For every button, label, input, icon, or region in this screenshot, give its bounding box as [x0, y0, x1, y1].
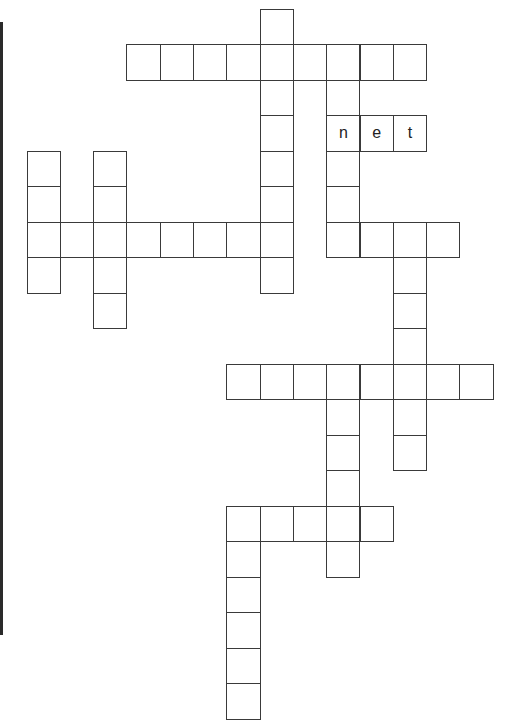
crossword-cell[interactable]: [393, 364, 427, 401]
crossword-grid: net: [0, 0, 509, 728]
crossword-cell[interactable]: [393, 44, 427, 81]
crossword-cell[interactable]: [160, 222, 194, 259]
crossword-cell[interactable]: [393, 257, 427, 294]
crossword-cell[interactable]: [360, 222, 394, 259]
crossword-cell[interactable]: [260, 44, 294, 81]
crossword-cell[interactable]: [27, 257, 61, 294]
crossword-cell[interactable]: [193, 44, 227, 81]
crossword-cell[interactable]: [126, 44, 160, 81]
crossword-cell[interactable]: [27, 222, 61, 259]
crossword-cell[interactable]: [326, 470, 360, 507]
crossword-cell[interactable]: [126, 222, 160, 259]
crossword-cell[interactable]: [27, 186, 61, 223]
crossword-cell[interactable]: [360, 364, 394, 401]
crossword-cell[interactable]: [226, 44, 260, 81]
crossword-cell[interactable]: [459, 364, 493, 401]
crossword-cell[interactable]: [326, 364, 360, 401]
crossword-cell[interactable]: [226, 222, 260, 259]
crossword-cell[interactable]: [260, 9, 294, 46]
crossword-cell[interactable]: [326, 44, 360, 81]
crossword-cell[interactable]: [260, 115, 294, 152]
crossword-cell[interactable]: [326, 399, 360, 436]
crossword-cell[interactable]: [93, 222, 127, 259]
crossword-cell[interactable]: [226, 506, 260, 543]
crossword-cell[interactable]: [226, 364, 260, 401]
crossword-cell[interactable]: [93, 151, 127, 188]
crossword-cell[interactable]: [93, 293, 127, 330]
crossword-cell[interactable]: [293, 364, 327, 401]
crossword-cell[interactable]: [326, 222, 360, 259]
crossword-cell[interactable]: [326, 80, 360, 117]
crossword-cell[interactable]: e: [360, 115, 394, 152]
crossword-cell[interactable]: [260, 257, 294, 294]
crossword-cell[interactable]: [260, 506, 294, 543]
crossword-cell[interactable]: [360, 506, 394, 543]
crossword-cell[interactable]: [160, 44, 194, 81]
crossword-cell[interactable]: [393, 293, 427, 330]
crossword-cell[interactable]: [393, 222, 427, 259]
crossword-cell[interactable]: [93, 186, 127, 223]
crossword-cell[interactable]: [326, 151, 360, 188]
crossword-cell[interactable]: [60, 222, 94, 259]
crossword-cell[interactable]: [293, 506, 327, 543]
crossword-cell[interactable]: [393, 328, 427, 365]
crossword-cell[interactable]: [326, 435, 360, 472]
crossword-cell[interactable]: [426, 222, 460, 259]
crossword-cell[interactable]: [193, 222, 227, 259]
crossword-cell[interactable]: [226, 648, 260, 685]
crossword-cell[interactable]: [260, 151, 294, 188]
crossword-cell[interactable]: [93, 257, 127, 294]
crossword-cell[interactable]: [260, 222, 294, 259]
crossword-cell[interactable]: [360, 44, 394, 81]
crossword-cell[interactable]: [260, 364, 294, 401]
crossword-cell[interactable]: [226, 577, 260, 614]
crossword-cell[interactable]: [326, 186, 360, 223]
crossword-cell[interactable]: [260, 80, 294, 117]
crossword-cell[interactable]: [426, 364, 460, 401]
crossword-cell[interactable]: [27, 151, 61, 188]
crossword-cell[interactable]: n: [326, 115, 360, 152]
crossword-cell[interactable]: [226, 612, 260, 649]
crossword-cell[interactable]: [293, 44, 327, 81]
crossword-cell[interactable]: [260, 186, 294, 223]
crossword-cell[interactable]: [326, 541, 360, 578]
crossword-cell[interactable]: [226, 541, 260, 578]
crossword-cell[interactable]: [326, 506, 360, 543]
crossword-cell[interactable]: [393, 435, 427, 472]
crossword-cell[interactable]: t: [393, 115, 427, 152]
crossword-cell[interactable]: [226, 683, 260, 720]
crossword-cell[interactable]: [393, 399, 427, 436]
